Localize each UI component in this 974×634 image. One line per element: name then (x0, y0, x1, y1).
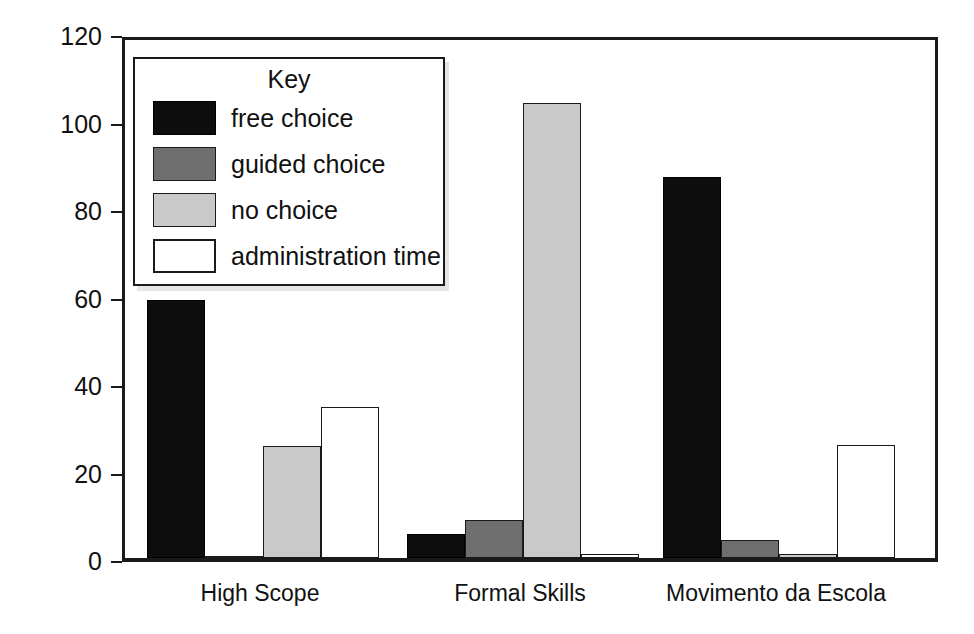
bar (523, 103, 581, 558)
y-tick-mark (111, 124, 122, 126)
bar (465, 520, 523, 559)
legend-swatch-icon (153, 239, 216, 273)
y-tick-mark (111, 36, 122, 38)
y-tick-label: 40 (0, 374, 102, 399)
bar (663, 177, 721, 558)
y-tick-label: 100 (0, 112, 102, 137)
legend-label: guided choice (231, 143, 385, 185)
legend-label: free choice (231, 97, 353, 139)
y-tick-label: 20 (0, 462, 102, 487)
bar (205, 556, 263, 559)
legend: Key free choiceguided choiceno choiceadm… (133, 57, 445, 286)
legend-label: administration time (231, 235, 441, 277)
y-tick-label: 120 (0, 24, 102, 49)
y-tick-mark (111, 299, 122, 301)
legend-label: no choice (231, 189, 338, 231)
y-tick-mark (111, 211, 122, 213)
bar (721, 540, 779, 558)
y-tick-mark (111, 474, 122, 476)
y-tick-mark (111, 561, 122, 563)
y-tick-label: 0 (0, 549, 102, 574)
y-tick-mark (111, 386, 122, 388)
bar (407, 534, 465, 558)
bar (837, 445, 895, 558)
x-tick-label: Movimento da Escola (606, 580, 946, 606)
y-tick-label: 60 (0, 287, 102, 312)
bar (581, 554, 639, 558)
legend-swatch-icon (153, 101, 216, 135)
bar (321, 407, 379, 558)
bar (147, 300, 205, 558)
bar-chart-figure: mean counts per hour 020406080100120 Hig… (0, 0, 974, 634)
bar (263, 446, 321, 558)
legend-swatch-icon (153, 193, 216, 227)
y-tick-label: 80 (0, 199, 102, 224)
legend-swatch-icon (153, 147, 216, 181)
bar (779, 554, 837, 558)
legend-title: Key (135, 65, 443, 93)
